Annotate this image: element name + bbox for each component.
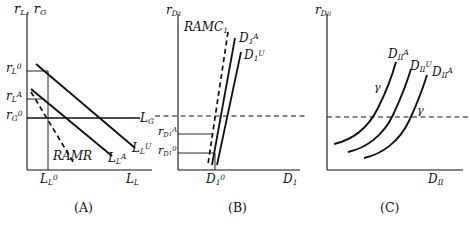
panel-c-curve-d2-a-left bbox=[334, 62, 396, 144]
panel-a-curve-ll-a bbox=[31, 89, 112, 156]
panel-c-annotation-gamma-1: γ bbox=[374, 81, 381, 94]
three-panel-economics-figure: rL, rG rL0 rLA rG0 LL0 LL LG LLU LLA bbox=[0, 0, 470, 225]
panel-c-y-axis-label: rDII bbox=[315, 4, 331, 17]
panel-c-x-axis-label: DII bbox=[428, 173, 444, 186]
panel-a-ytick-rg0: rG0 bbox=[6, 109, 22, 122]
panel-b-y-axis-label: rD1 bbox=[166, 4, 182, 17]
panel-a-x-axis-label: LL bbox=[126, 173, 139, 186]
panel-a-ytick-rl0: rL0 bbox=[6, 62, 21, 75]
panel-a-tag: (A) bbox=[74, 200, 93, 215]
panel-c: rDII DIIA DIIU DIIA γ γ DII (C) bbox=[300, 0, 470, 225]
panel-a-ytick-rla: rLA bbox=[6, 90, 22, 103]
panel-b-graphics bbox=[155, 0, 305, 225]
panel-c-label-d2-a-right: DIIA bbox=[432, 66, 453, 79]
panel-b-curve-d1-a bbox=[212, 38, 235, 165]
panel-c-annotation-gamma-2: γ bbox=[417, 104, 424, 117]
panel-a-y-axis-label: rL, rG bbox=[14, 2, 46, 17]
panel-c-tag: (C) bbox=[380, 200, 399, 215]
panel-b-ytick-rda: rD1A bbox=[158, 126, 177, 139]
panel-b-tag: (B) bbox=[228, 200, 247, 215]
panel-a-xtick-ll0: LL0 bbox=[40, 173, 58, 186]
panel-a-label-ll-a: LLA bbox=[108, 152, 126, 165]
panel-c-label-d2-u: DIIU bbox=[410, 60, 432, 73]
panel-a-graphics bbox=[0, 0, 160, 225]
panel-b-xtick-d0: D10 bbox=[206, 173, 225, 186]
panel-b-ytick-rd0: rD10 bbox=[158, 145, 177, 158]
panel-b-label-d1-u: D1U bbox=[244, 49, 265, 62]
panel-c-graphics bbox=[300, 0, 470, 225]
panel-a: rL, rG rL0 rLA rG0 LL0 LL LG LLU LLA bbox=[0, 0, 160, 225]
panel-b: rD1 RAMC1 D1A D1U rD1A rD10 D10 D1 (B) bbox=[155, 0, 305, 225]
panel-a-label-ramr: RAMR bbox=[53, 150, 92, 162]
panel-b-x-axis-label: D1 bbox=[283, 173, 297, 186]
panel-a-label-ll-u: LLU bbox=[132, 142, 151, 155]
panel-b-label-d1-a: D1A bbox=[239, 32, 259, 45]
panel-b-label-ramc: RAMC1 bbox=[184, 21, 228, 34]
panel-c-label-d2-a-left: DIIA bbox=[388, 48, 409, 61]
panel-a-label-lg: LG bbox=[140, 112, 154, 125]
